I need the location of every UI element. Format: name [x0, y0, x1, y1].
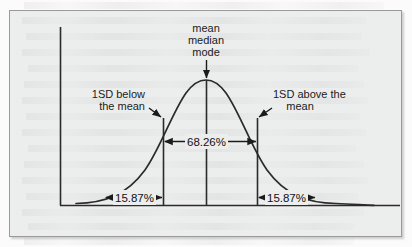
- left-tail-label: 15.87%: [115, 192, 154, 204]
- plus-one-sd-leader-arrow: [259, 108, 272, 117]
- mean-median-mode-label-line3: mode: [192, 46, 220, 58]
- plus-one-sd-label-line1: 1SD above the: [273, 88, 346, 100]
- minus-one-sd-label-line2: the mean: [99, 100, 145, 112]
- mean-median-mode-label-line2: median: [188, 34, 224, 46]
- figure-page: mean median mode 1SD below the mean 1SD …: [0, 0, 412, 247]
- right-tail-label: 15.87%: [267, 192, 306, 204]
- central-region-label: 68.26%: [187, 136, 226, 148]
- plus-one-sd-label-line2: mean: [286, 100, 314, 112]
- normal-distribution-chart: mean median mode 1SD below the mean 1SD …: [0, 0, 412, 247]
- minus-one-sd-leader-arrow: [149, 108, 161, 117]
- minus-one-sd-label-line1: 1SD below: [92, 88, 145, 100]
- mean-median-mode-label-line1: mean: [192, 22, 220, 34]
